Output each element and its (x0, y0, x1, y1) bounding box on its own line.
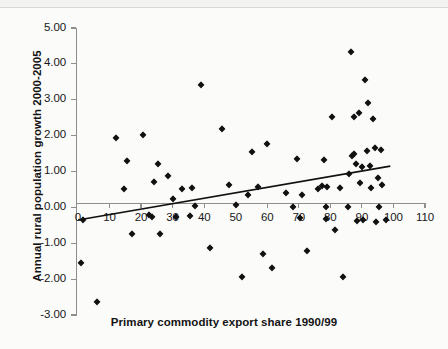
data-point (363, 147, 370, 154)
x-tick-mark (393, 203, 394, 208)
data-point (120, 185, 127, 192)
data-point (283, 189, 290, 196)
x-tick-label: 110 (412, 211, 438, 223)
data-point (303, 247, 310, 254)
data-point (379, 181, 386, 188)
data-point (371, 145, 378, 152)
x-tick-mark (330, 203, 331, 208)
data-point (248, 148, 255, 155)
x-tick-mark (172, 203, 173, 208)
data-point (365, 99, 372, 106)
data-point (232, 201, 239, 208)
y-tick-mark (71, 279, 76, 280)
x-tick-mark (424, 203, 425, 208)
data-point (254, 183, 261, 190)
data-point (123, 158, 130, 165)
data-point (77, 259, 84, 266)
data-point (226, 181, 233, 188)
data-point (368, 184, 375, 191)
x-tick-mark (140, 203, 141, 208)
data-point (197, 82, 204, 89)
data-point (358, 164, 365, 171)
data-point (320, 156, 327, 163)
y-tick-mark (71, 135, 76, 136)
data-point (139, 131, 146, 138)
plot-area: -3.00-2.00-1.000.001.002.003.004.005.00 … (0, 0, 448, 349)
data-point (346, 171, 353, 178)
data-point (93, 299, 100, 306)
x-axis-title: Primary commodity export share 1990/99 (0, 316, 448, 328)
data-point (245, 191, 252, 198)
x-tick-mark (109, 203, 110, 208)
y-tick-mark (71, 207, 76, 208)
data-point (155, 160, 162, 167)
x-tick-mark (298, 203, 299, 208)
data-point (366, 162, 373, 169)
data-point (207, 244, 214, 251)
y-tick-mark (71, 171, 76, 172)
y-tick-mark (71, 243, 76, 244)
data-point (294, 155, 301, 162)
x-tick-label: 40 (191, 211, 217, 223)
x-axis-line (77, 203, 426, 204)
data-point (347, 49, 354, 56)
data-point (178, 186, 185, 193)
data-point (128, 230, 135, 237)
x-tick-mark (204, 203, 205, 208)
trend-line (0, 0, 448, 349)
data-point (377, 146, 384, 153)
y-axis-title: Annual rural population growth 2000-2005 (31, 21, 43, 311)
data-point (328, 113, 335, 120)
data-point (369, 116, 376, 123)
y-axis-line (76, 28, 77, 316)
x-tick-label: 80 (317, 211, 343, 223)
data-point (264, 140, 271, 147)
data-point (374, 174, 381, 181)
x-tick-mark (267, 203, 268, 208)
data-point (150, 179, 157, 186)
data-point (112, 135, 119, 142)
data-point (298, 191, 305, 198)
data-point (324, 183, 331, 190)
x-tick-label: 60 (254, 211, 280, 223)
data-point (357, 179, 364, 186)
x-tick-label: 0 (65, 211, 91, 223)
data-point (268, 265, 275, 272)
data-point (372, 218, 379, 225)
data-point (188, 184, 195, 191)
data-point (331, 226, 338, 233)
data-point (156, 231, 163, 238)
y-tick-mark (71, 63, 76, 64)
x-tick-label: 50 (223, 211, 249, 223)
scatter-plot-figure: -3.00-2.00-1.000.001.002.003.004.005.00 … (0, 0, 448, 349)
y-tick-mark (71, 99, 76, 100)
data-point (218, 125, 225, 132)
x-tick-mark (361, 203, 362, 208)
data-point (259, 250, 266, 257)
x-tick-label: 10 (97, 211, 123, 223)
data-point (238, 274, 245, 281)
data-point (361, 76, 368, 83)
data-point (339, 274, 346, 281)
data-point (164, 172, 171, 179)
y-tick-mark (71, 27, 76, 28)
data-point (336, 184, 343, 191)
